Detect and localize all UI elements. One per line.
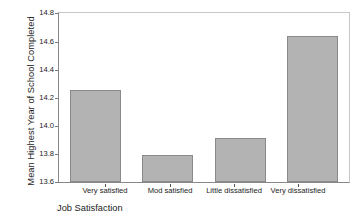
bars-container (59, 13, 349, 182)
x-tick-label-mod-satisfied: Mod satisfied (136, 186, 204, 195)
y-tick-label: 14.8 (28, 9, 54, 17)
x-tick-label-very-dissatisfied: Very dissatisfied (260, 186, 336, 195)
y-axis-tick-labels: 13.6 13.8 14.0 14.2 14.4 14.6 14.8 (26, 0, 54, 224)
y-tick-label: 14.0 (28, 122, 54, 130)
plot-area (58, 12, 350, 183)
bar-very-dissatisfied (287, 36, 338, 182)
y-tick-label: 13.8 (28, 150, 54, 158)
bar-little-dissatisfied (215, 138, 266, 182)
x-axis-title: Job Satisfaction (57, 203, 123, 213)
y-tick-label: 14.6 (28, 38, 54, 46)
y-tick-label: 14.4 (28, 66, 54, 74)
y-tick-label: 14.2 (28, 94, 54, 102)
bar-very-satisfied (70, 90, 121, 182)
bar-chart: Mean Highest Year of School Completed 13… (0, 0, 361, 224)
x-tick-label-very-satisfied: Very satisfied (69, 186, 141, 195)
y-tick-label: 13.6 (28, 178, 54, 186)
bar-mod-satisfied (142, 155, 193, 182)
